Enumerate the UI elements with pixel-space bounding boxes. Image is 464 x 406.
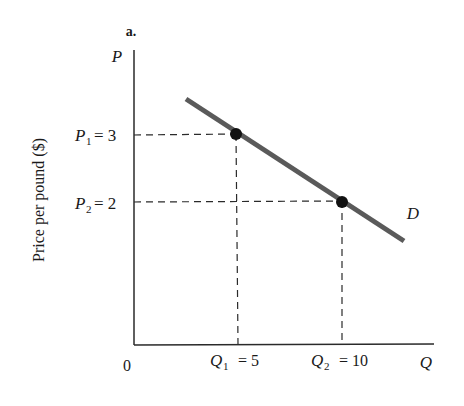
y-axis-letter: P (111, 47, 122, 66)
svg-text:= 5: = 5 (238, 352, 259, 369)
svg-text:P: P (74, 126, 85, 145)
svg-text:1: 1 (223, 360, 229, 372)
p1-guide (134, 134, 236, 135)
point-p2-q2 (336, 196, 348, 208)
svg-text:Q: Q (210, 351, 222, 370)
p1-label: P 1 = 3 (74, 126, 116, 147)
p2-guide (134, 201, 342, 202)
p2-label: P 2 = 2 (74, 194, 116, 215)
guide-lines (134, 134, 342, 344)
x-axis (134, 344, 434, 345)
demand-chart: a. P Q 0 Price per pound ($) D P 1 = 3 P… (0, 0, 464, 406)
svg-text:P: P (74, 194, 85, 213)
svg-text:= 3: = 3 (94, 126, 116, 145)
svg-text:2: 2 (86, 203, 92, 215)
svg-text:1: 1 (86, 135, 92, 147)
q1-label: Q 1 = 5 (210, 351, 259, 372)
q2-label: Q 2 = 10 (311, 351, 368, 372)
origin-label: 0 (123, 357, 131, 374)
svg-text:= 2: = 2 (94, 194, 116, 213)
curve-label: D (406, 204, 420, 223)
svg-text:= 10: = 10 (339, 352, 368, 369)
chart-title: a. (126, 24, 137, 39)
q1-guide (236, 134, 238, 344)
x-axis-letter: Q (420, 353, 432, 372)
svg-text:Q: Q (311, 351, 323, 370)
svg-text:2: 2 (324, 360, 330, 372)
demand-curve (186, 99, 404, 241)
y-axis-title: Price per pound ($) (30, 138, 48, 262)
point-p1-q1 (230, 128, 242, 140)
